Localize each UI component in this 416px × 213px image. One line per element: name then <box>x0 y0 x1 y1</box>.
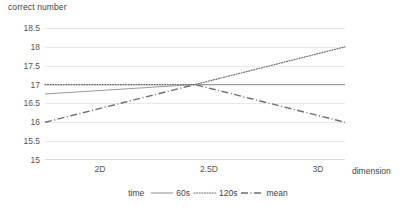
y-tick-label: 15 <box>2 155 40 165</box>
legend-label-mean: mean <box>266 188 287 198</box>
legend-swatch-solid-icon <box>151 189 173 197</box>
legend-label-120s: 120s <box>219 188 237 198</box>
plot-area <box>45 28 345 160</box>
legend-item-mean[interactable]: mean <box>241 188 287 198</box>
y-tick-label: 15.5 <box>2 136 40 146</box>
y-tick-label: 17.5 <box>2 61 40 71</box>
legend-swatch-dotted-icon <box>194 189 216 197</box>
series-line-60s <box>45 85 345 94</box>
y-axis-title: correct number <box>8 2 67 12</box>
y-tick-label: 16 <box>2 117 40 127</box>
y-tick-label: 18 <box>2 42 40 52</box>
x-tick-label-2d: 2D <box>95 164 106 174</box>
series-line-120s <box>45 47 345 85</box>
x-tick-label-3d: 3D <box>313 164 324 174</box>
x-axis-title: dimension <box>352 166 391 176</box>
legend-item-120s[interactable]: 120s <box>194 188 237 198</box>
y-tick-label: 16.5 <box>2 98 40 108</box>
legend-label-60s: 60s <box>176 188 190 198</box>
line-chart: correct number dimension 18.5 18 17.5 17… <box>0 0 416 213</box>
legend-title: time <box>128 188 144 198</box>
series-layer <box>45 28 345 160</box>
x-tick-label-2-5d: 2.5D <box>200 164 218 174</box>
legend-item-60s[interactable]: 60s <box>151 188 190 198</box>
y-tick-label: 18.5 <box>2 23 40 33</box>
legend-swatch-dashdot-icon <box>241 189 263 197</box>
y-axis-tick-labels: 18.5 18 17.5 17 16.5 16 15.5 15 <box>0 28 40 160</box>
series-line-mean <box>45 85 345 123</box>
y-tick-label: 17 <box>2 80 40 90</box>
legend: time 60s 120s mean <box>0 188 416 198</box>
